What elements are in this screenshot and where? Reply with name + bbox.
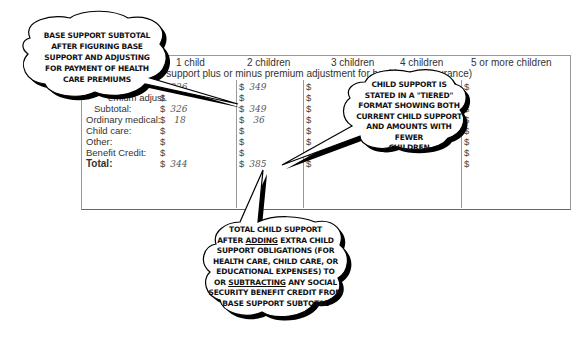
callout-base-support-text: BASE SUPPORT SUBTOTAL AFTER FIGURING BAS… (32, 30, 162, 85)
callout-total-text: TOTAL CHILD SUPPORT AFTER ADDING EXTRA C… (208, 225, 343, 309)
callout-tiered-text: CHILD SUPPORT IS STATED IN A "TIERED" FO… (354, 80, 464, 154)
